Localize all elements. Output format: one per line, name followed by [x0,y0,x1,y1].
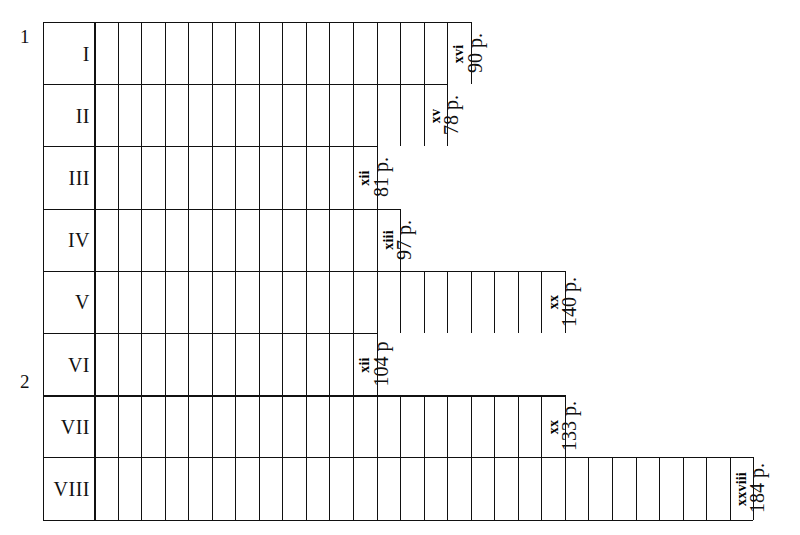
bar-cell [213,210,237,271]
bar-cell [236,397,260,457]
bar-cell [95,147,119,208]
bar-cell [189,272,213,333]
bar-cells: xii [94,333,378,395]
bar-cell [566,458,590,519]
bar-cell [260,334,284,395]
bar-cells: xvi [94,22,472,84]
bar-pages-label: 97 p. [393,220,416,260]
bar-cell [166,458,190,519]
bar-cell [260,210,284,271]
bar-pages-label: 133 p. [558,401,581,451]
bar-cell [283,458,307,519]
row-label-box: I [43,22,94,84]
bar-cell [236,85,260,146]
bar-cell [260,85,284,146]
bar-cell [119,85,143,146]
bar-cell [166,397,190,457]
bar-cell [401,85,425,146]
bar-cell [307,334,331,395]
bar-cell [330,210,354,271]
bar-cell [142,334,166,395]
bar-chart-figure: 1 2 Ixvi90 p.IIxv78 p.IIIxii81 p.IVxiii9… [0,0,800,535]
bar-cell [283,23,307,84]
row-label: I [83,44,90,64]
bar-cell [307,272,331,333]
bar-cells: xiii [94,209,401,271]
bar-cells: xii [94,146,378,208]
bar-cell [236,334,260,395]
bar-cell [119,458,143,519]
row-label: IV [68,230,90,250]
bar-cell [95,272,119,333]
bar-cell [260,23,284,84]
bar-cell [354,85,378,146]
bar-cell [401,397,425,457]
bar-cell [166,210,190,271]
row-label: III [69,168,90,188]
bar-cell [378,458,402,519]
bar-cell [142,23,166,84]
bar-cell [260,272,284,333]
bar-cells: xx [94,271,566,333]
bar-cell [425,272,449,333]
axis-marker-2: 2 [20,372,30,391]
bar-pages-label: 81 p. [369,157,392,197]
bar-cell [213,397,237,457]
bar-cell [472,397,496,457]
bar-cell [142,147,166,208]
bar-cell [307,85,331,146]
bar-cell [119,397,143,457]
bar-cell [213,458,237,519]
row-label-box: V [43,271,94,333]
bar-cell [330,147,354,208]
bar-cell [283,210,307,271]
bar-cell [166,147,190,208]
row-label-box: III [43,146,94,208]
bar-cell [542,458,566,519]
bar-cell [236,147,260,208]
bar-cell [189,23,213,84]
bar-cell [95,23,119,84]
bar-cell [189,85,213,146]
bar-cell [260,397,284,457]
bar-cell [307,397,331,457]
bar-cell [378,85,402,146]
bar-cell [119,272,143,333]
bar-cell [330,397,354,457]
bar-cell [330,334,354,395]
bar-cell [495,458,519,519]
bar-cells: xv [94,84,448,146]
bar-cell [660,458,684,519]
bar-cell [495,272,519,333]
bar-cell [330,272,354,333]
bar-pages-label: 184 p. [746,463,769,513]
bar-cell [260,147,284,208]
bar-cell [307,147,331,208]
bar-cell [166,334,190,395]
bar-cell [142,272,166,333]
bar-cell [472,272,496,333]
row-label: II [76,106,90,126]
row-label: V [75,292,90,312]
bar-cell [401,458,425,519]
bar-cell [283,85,307,146]
bar-cell [519,458,543,519]
row-label-box: VIII [43,457,94,519]
bar-cell [378,272,402,333]
bar-cell [425,458,449,519]
bar-cell [519,397,543,457]
bar-cell [589,458,613,519]
bar-cell [213,334,237,395]
bar-cell [378,397,402,457]
bar-cell [260,458,284,519]
bar-cell [95,210,119,271]
bar-cells: xxviii [94,457,754,519]
bar-cell [613,458,637,519]
bar-cells: xx [94,395,566,457]
bar-cell [472,458,496,519]
bar-cell [166,23,190,84]
bar-cell [401,272,425,333]
bar-cell [307,458,331,519]
bar-cell [119,23,143,84]
bar-cell [189,147,213,208]
